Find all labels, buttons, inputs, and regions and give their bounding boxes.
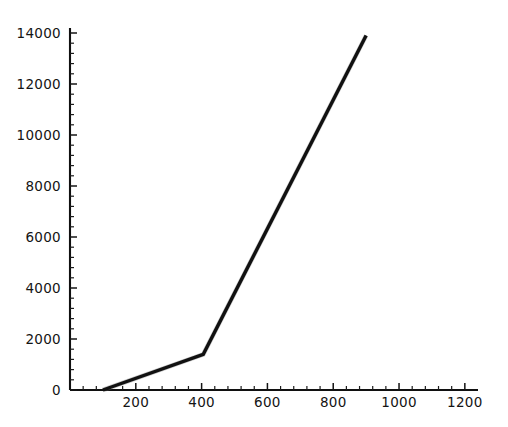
chart-background: [0, 0, 508, 427]
x-tick-label: 1200: [447, 394, 483, 410]
y-tick-label: 6000: [25, 229, 61, 245]
y-tick-label: 0: [52, 382, 61, 398]
y-tick-label: 14000: [17, 25, 61, 41]
x-tick-label: 200: [122, 394, 149, 410]
x-tick-label: 800: [320, 394, 347, 410]
y-tick-label: 10000: [17, 127, 61, 143]
y-tick-label: 2000: [25, 331, 61, 347]
y-tick-label: 8000: [25, 178, 61, 194]
y-tick-label: 12000: [17, 76, 61, 92]
x-tick-label: 600: [254, 394, 281, 410]
line-chart: 02000400060008000100001200014000 2004006…: [0, 0, 508, 427]
chart-figure: 02000400060008000100001200014000 2004006…: [0, 0, 508, 427]
y-tick-label: 4000: [25, 280, 61, 296]
x-tick-label: 1000: [381, 394, 417, 410]
x-tick-label: 400: [188, 394, 215, 410]
